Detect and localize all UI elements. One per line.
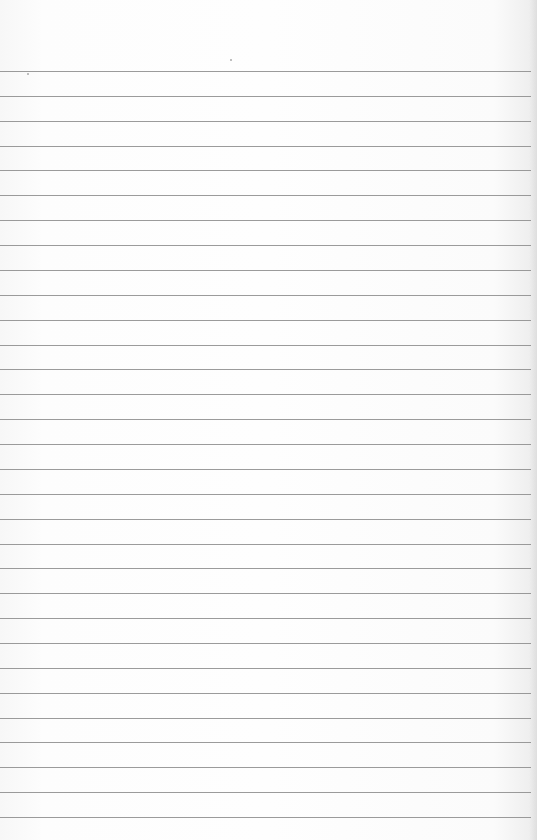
ruled-line	[0, 494, 531, 495]
ruled-line	[0, 742, 531, 743]
ruled-line	[0, 419, 531, 420]
lined-paper-sheet	[0, 0, 537, 840]
ruled-line	[0, 270, 531, 271]
ruled-line	[0, 693, 531, 694]
ruled-line	[0, 618, 531, 619]
ruled-line	[0, 767, 531, 768]
ruled-line	[0, 519, 531, 520]
ruled-line	[0, 146, 531, 147]
ruled-line	[0, 394, 531, 395]
ruled-line	[0, 195, 531, 196]
paper-speck	[230, 59, 232, 61]
ruled-line	[0, 295, 531, 296]
paper-speck	[27, 73, 29, 75]
ruled-line	[0, 668, 531, 669]
ruled-line	[0, 320, 531, 321]
ruled-line	[0, 170, 531, 171]
ruled-line	[0, 345, 531, 346]
ruled-line	[0, 593, 531, 594]
ruled-line	[0, 245, 531, 246]
ruled-line	[0, 369, 531, 370]
ruled-line	[0, 469, 531, 470]
page-edge-shadow	[529, 0, 537, 840]
ruled-line	[0, 71, 531, 72]
ruled-line	[0, 96, 531, 97]
ruled-line	[0, 444, 531, 445]
ruled-line	[0, 121, 531, 122]
ruled-line	[0, 643, 531, 644]
ruled-line	[0, 817, 531, 818]
ruled-line	[0, 220, 531, 221]
ruled-line	[0, 718, 531, 719]
ruled-line	[0, 544, 531, 545]
ruled-line	[0, 568, 531, 569]
ruled-line	[0, 792, 531, 793]
